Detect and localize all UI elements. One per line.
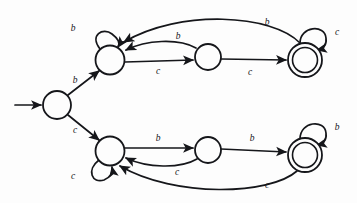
lower-middle-state[interactable] (195, 137, 221, 163)
edge-q5-q4-c[interactable] (126, 158, 197, 166)
upper-accept-state-inner-circle (293, 48, 318, 73)
start-state[interactable] (43, 91, 71, 119)
edge-q3-self-c-label: c (335, 27, 340, 37)
edge-q5-q4-c-label: c (175, 167, 180, 177)
edge-q3-q1-b-label: b (265, 17, 270, 27)
edge-q1-q2-c[interactable] (125, 60, 193, 62)
lower-middle-state-outer-circle (195, 137, 221, 163)
automaton-canvas: bcbccbbccbcbbc (0, 0, 357, 203)
edge-q6-q4-c[interactable] (120, 166, 297, 190)
edge-q1-q2-c-label: c (156, 66, 161, 76)
lower-accept-state[interactable] (288, 138, 322, 172)
upper-left-state-outer-circle (96, 46, 125, 75)
edge-q6-q4-c-label: c (265, 180, 270, 190)
lower-left-state-outer-circle (96, 137, 125, 166)
edge-q2-q1-b[interactable] (126, 41, 196, 50)
edge-q2-q3-c[interactable] (221, 59, 286, 60)
upper-middle-state-outer-circle (195, 44, 221, 70)
upper-middle-state[interactable] (195, 44, 221, 70)
edge-q4-self-c-label: c (71, 171, 76, 181)
upper-left-state[interactable] (96, 46, 125, 75)
states-layer (43, 43, 322, 172)
edge-q1-self-b-label: b (71, 23, 76, 33)
edge-q6-self-b-label: b (335, 122, 340, 132)
edge-q4-q5-b-label: b (156, 133, 161, 143)
edge-q5-q6-b[interactable] (221, 149, 286, 152)
edge-q2-q3-c-label: c (248, 67, 253, 77)
edge-q3-q1-b[interactable] (124, 19, 300, 43)
start-state-outer-circle (43, 91, 71, 119)
edge-q2-q1-b-label: b (176, 31, 181, 41)
edge-q0-q4-c-label: c (73, 125, 78, 135)
lower-left-state[interactable] (96, 137, 125, 166)
lower-accept-state-inner-circle (293, 143, 318, 168)
edge-q5-q6-b-label: b (250, 133, 255, 143)
automaton-figure: bcbccbbccbcbbc (0, 0, 357, 203)
upper-accept-state[interactable] (288, 43, 322, 77)
edge-q0-q1-b-label: b (73, 75, 78, 85)
